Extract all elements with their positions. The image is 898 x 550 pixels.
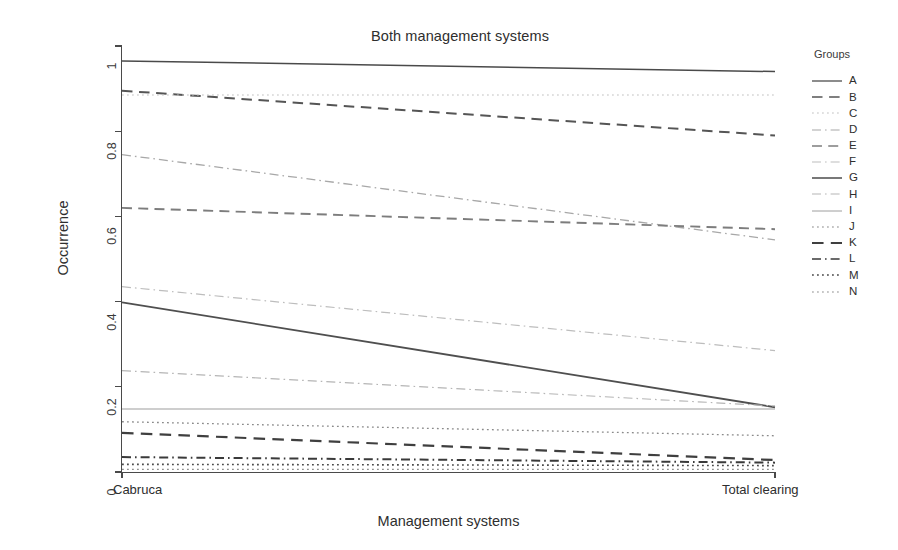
x-tick-mark <box>774 472 775 478</box>
legend-line-sample-icon <box>812 286 842 298</box>
legend-item-a[interactable]: A <box>812 73 898 89</box>
x-axis-title: Management systems <box>122 513 775 529</box>
legend-line-sample-icon <box>812 221 842 233</box>
legend-item-l[interactable]: L <box>812 251 898 267</box>
y-tick-label-text: 0.4 <box>105 302 119 342</box>
series-line-e <box>122 208 775 229</box>
y-axis-title: Occurrence <box>55 168 71 308</box>
legend-item-d[interactable]: D <box>812 122 898 138</box>
legend-item-label: H <box>849 189 857 201</box>
legend-title: Groups <box>814 48 898 60</box>
legend-item-e[interactable]: E <box>812 138 898 154</box>
chart-figure: Both management systems Occurrence Manag… <box>0 0 898 550</box>
y-tick-label-text: 0.2 <box>105 387 119 427</box>
legend-item-label: B <box>849 92 857 104</box>
chart-title: Both management systems <box>300 28 620 44</box>
legend-item-label: M <box>849 270 859 282</box>
x-tick-mark <box>121 472 122 478</box>
legend-line-sample-icon <box>812 91 842 103</box>
legend: Groups ABCDEFGHIJKLMN <box>812 48 898 300</box>
legend-item-b[interactable]: B <box>812 89 898 105</box>
y-tick-label: 0.2 <box>72 380 112 394</box>
legend-item-label: K <box>849 237 857 249</box>
plot-area <box>122 46 775 472</box>
y-tick-label: 0.4 <box>72 295 112 309</box>
legend-line-sample-icon <box>812 107 842 119</box>
series-line-j <box>122 422 775 436</box>
legend-line-sample-icon <box>812 124 842 136</box>
series-line-d <box>122 155 775 240</box>
legend-item-label: C <box>849 108 857 120</box>
legend-line-sample-icon <box>812 75 842 87</box>
series-lines <box>122 46 775 472</box>
legend-item-m[interactable]: M <box>812 267 898 283</box>
legend-item-label: I <box>849 205 852 217</box>
legend-line-sample-icon <box>812 172 842 184</box>
legend-item-label: N <box>849 286 857 298</box>
y-tick-label: 1 <box>72 39 112 53</box>
legend-item-j[interactable]: J <box>812 219 898 235</box>
legend-item-c[interactable]: C <box>812 105 898 121</box>
legend-item-label: J <box>849 221 855 233</box>
legend-item-h[interactable]: H <box>812 186 898 202</box>
legend-items: ABCDEFGHIJKLMN <box>812 73 898 300</box>
legend-line-sample-icon <box>812 140 842 152</box>
y-tick-label-text: 0.8 <box>105 131 119 171</box>
legend-item-g[interactable]: G <box>812 170 898 186</box>
series-line-b <box>122 91 775 136</box>
y-tick-label-text: 1 <box>105 46 119 86</box>
legend-item-k[interactable]: K <box>812 235 898 251</box>
legend-item-n[interactable]: N <box>812 283 898 299</box>
x-tick-label-cabruca: Cabruca <box>113 482 162 497</box>
legend-item-label: E <box>849 140 857 152</box>
legend-item-label: F <box>849 156 856 168</box>
series-line-l <box>122 457 775 463</box>
series-line-m <box>122 464 775 465</box>
x-tick-label-total-clearing: Total clearing <box>722 482 799 497</box>
legend-line-sample-icon <box>812 269 842 281</box>
series-line-g <box>122 302 775 407</box>
legend-line-sample-icon <box>812 156 842 168</box>
y-tick-label: 0.8 <box>72 124 112 138</box>
legend-line-sample-icon <box>812 237 842 249</box>
series-line-a <box>122 61 775 72</box>
legend-item-label: A <box>849 75 857 87</box>
legend-line-sample-icon <box>812 205 842 217</box>
series-line-h <box>122 371 775 406</box>
y-tick-label: 0 <box>72 465 112 479</box>
legend-line-sample-icon <box>812 188 842 200</box>
y-tick-label: 0.6 <box>72 209 112 223</box>
legend-item-label: L <box>849 253 855 265</box>
legend-item-label: D <box>849 124 857 136</box>
legend-item-f[interactable]: F <box>812 154 898 170</box>
series-line-k <box>122 433 775 460</box>
legend-item-i[interactable]: I <box>812 203 898 219</box>
y-tick-label-text: 0.6 <box>105 216 119 256</box>
legend-line-sample-icon <box>812 253 842 265</box>
legend-item-label: G <box>849 172 858 184</box>
